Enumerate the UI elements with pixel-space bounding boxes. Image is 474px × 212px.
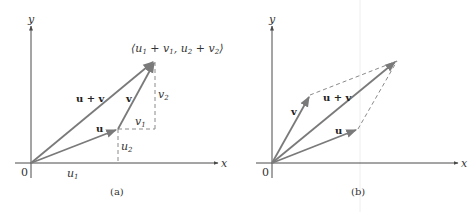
parallelogram-top-side: [310, 61, 397, 95]
caption-a: (a): [110, 186, 124, 197]
x-axis-label: x: [461, 157, 468, 170]
y-axis-label: y: [27, 13, 35, 26]
endpoint-coordinate-label: ⟨u1 + v1, u2 + v2⟩: [131, 42, 224, 56]
vector-addition-figure: x y 0 u v u + v u1 u2 v1 v2 ⟨u1 + v1, u2…: [0, 0, 474, 212]
vector-u: [31, 130, 116, 163]
label-u2: u2: [121, 140, 133, 154]
x-axis-label: x: [221, 157, 228, 170]
label-u1: u1: [67, 167, 79, 181]
label-v: v: [125, 93, 133, 104]
panel-b: x y 0 u v u + v (b): [256, 13, 468, 197]
label-u: u: [96, 123, 103, 134]
label-u-plus-v: u + v: [76, 93, 106, 104]
label-u-plus-v: u + v: [323, 92, 353, 103]
caption-b: (b): [351, 186, 365, 197]
y-axis-label: y: [268, 13, 276, 26]
panel-a: x y 0 u v u + v u1 u2 v1 v2 ⟨u1 + v1, u2…: [15, 13, 228, 197]
label-v1: v1: [135, 115, 146, 129]
vector-u: [272, 130, 356, 163]
label-v: v: [290, 106, 298, 117]
vector-u-plus-v: [31, 62, 153, 163]
label-v2: v2: [158, 88, 169, 102]
label-u: u: [335, 125, 342, 136]
origin-label: 0: [21, 166, 28, 179]
parallelogram-right-side: [358, 61, 397, 129]
origin-label: 0: [262, 166, 269, 179]
